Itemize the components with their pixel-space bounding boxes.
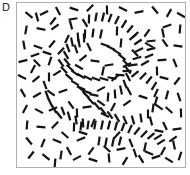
contour-line-element [115, 114, 120, 122]
contour-line-element [126, 73, 130, 81]
background-line-element [162, 39, 167, 46]
background-line-element [178, 93, 181, 102]
contour-line-element [66, 74, 73, 80]
background-line-element [167, 9, 172, 17]
contour-line-element [102, 13, 104, 22]
background-line-element [35, 109, 43, 113]
contour-line-element [123, 80, 126, 88]
background-line-element [174, 45, 183, 46]
contour-line-element [118, 54, 125, 60]
background-line-element [139, 96, 148, 99]
background-line-element [52, 122, 58, 128]
background-line-element [163, 24, 171, 27]
background-line-element [123, 100, 130, 105]
background-line-element [58, 48, 64, 55]
contour-line-element [94, 121, 96, 130]
contour-line-element [148, 133, 155, 139]
background-line-element [37, 127, 46, 128]
contour-line-element [92, 29, 93, 38]
contour-line-element [58, 59, 63, 66]
contour-line-element [88, 98, 94, 105]
contour-line-element [94, 103, 100, 110]
contour-line-element [145, 54, 153, 57]
background-line-element [59, 89, 67, 92]
background-line-element [157, 140, 165, 145]
background-line-element [129, 139, 132, 147]
background-line-element [155, 130, 164, 132]
background-line-element [87, 5, 93, 11]
contour-line-element [152, 82, 157, 90]
contour-line-element [92, 77, 100, 80]
contour-line-element [115, 122, 117, 131]
background-line-element [145, 43, 153, 47]
background-line-element [117, 148, 126, 150]
contour-line-element [87, 121, 88, 130]
contour-line-element [154, 135, 162, 140]
background-line-element [144, 143, 146, 152]
background-line-element [49, 57, 52, 66]
contour-line-element [146, 76, 152, 83]
background-line-element [47, 90, 54, 95]
background-line-element [166, 91, 168, 100]
background-line-element [70, 21, 72, 30]
contour-line-element [141, 61, 149, 66]
background-line-element [97, 100, 104, 105]
background-line-element [79, 55, 86, 61]
background-line-element [163, 122, 167, 130]
contour-line-element [132, 116, 134, 125]
contour-line-element [119, 137, 121, 146]
background-line-element [37, 28, 46, 30]
contour-line-element [134, 127, 140, 134]
background-line-element [25, 12, 32, 18]
contour-line-element [105, 138, 107, 147]
contour-line-element [140, 114, 141, 123]
background-line-element [161, 147, 165, 155]
background-line-element [104, 146, 111, 152]
background-line-element [41, 139, 44, 147]
contour-line-element [147, 48, 156, 50]
contour-line-element [108, 93, 109, 102]
background-line-element [23, 105, 27, 113]
contour-line-element [67, 65, 74, 71]
contour-line-element [116, 75, 125, 76]
contour-line-element [108, 14, 111, 22]
contour-line-element [100, 30, 102, 39]
contour-line-element [108, 121, 110, 130]
background-line-element [42, 154, 49, 160]
background-line-element [87, 43, 91, 51]
background-line-element [155, 104, 162, 109]
background-line-element [60, 151, 61, 160]
contour-line-element [61, 107, 64, 115]
contour-line-element [66, 44, 69, 52]
background-line-element [77, 137, 85, 140]
background-line-element [89, 159, 98, 162]
contour-line-element [81, 122, 82, 131]
contour-line-element [147, 41, 156, 42]
background-line-element [177, 13, 185, 18]
background-line-element [65, 35, 69, 43]
stimulus-frame [16, 2, 186, 168]
contour-line-element [83, 119, 84, 128]
contour-line-element [71, 38, 73, 47]
contour-line-element [64, 59, 70, 66]
background-line-element [173, 128, 182, 129]
background-line-element [145, 151, 153, 154]
contour-line-element [135, 48, 143, 52]
background-line-element [53, 139, 61, 142]
contour-line-element [101, 121, 103, 130]
background-line-element [68, 101, 73, 108]
contour-line-element [95, 13, 97, 22]
background-line-element [28, 151, 34, 158]
background-line-element [34, 45, 42, 48]
contour-line-element [98, 137, 99, 146]
background-line-element [158, 60, 167, 61]
background-line-element [121, 39, 122, 48]
background-line-element [33, 76, 40, 82]
background-line-element [33, 93, 41, 98]
contour-line-element [115, 16, 119, 24]
contour-line-element [113, 50, 121, 55]
background-line-element [51, 24, 58, 29]
contour-line-element [71, 81, 79, 86]
contour-line-element [115, 90, 116, 99]
background-line-element [23, 41, 25, 50]
